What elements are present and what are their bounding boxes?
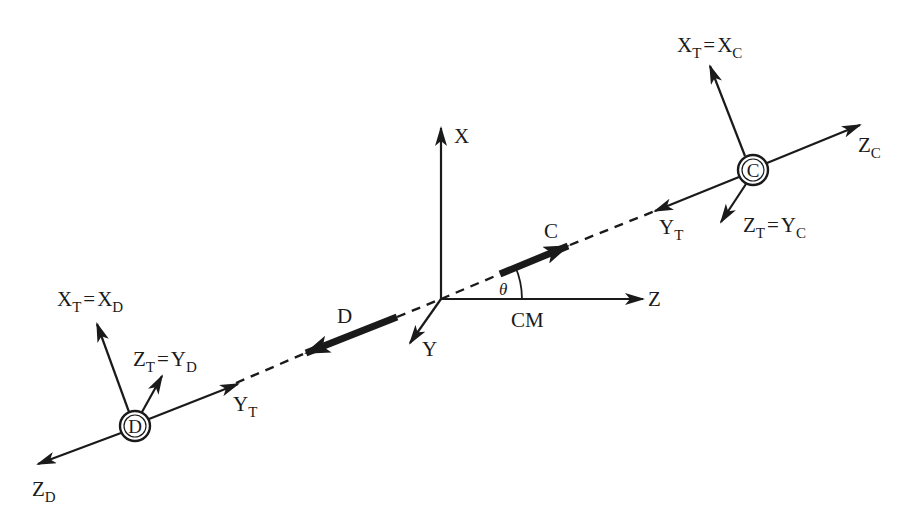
- d-xt-axis-arrow: [97, 324, 129, 412]
- c-zt-label: ZT=YC: [743, 213, 806, 241]
- c-xt-label: XT=XC: [677, 33, 742, 61]
- dashed-segment-c-inner: [441, 274, 500, 299]
- d-zd-axis-arrow: [38, 433, 121, 464]
- c-yt-label: YT: [659, 215, 683, 243]
- d-arrow-label: D: [337, 304, 352, 328]
- body-d-letter: D: [128, 416, 142, 437]
- line-of-centers: [236, 211, 655, 383]
- dashed-segment-c-outer: [570, 211, 655, 245]
- x-axis-label: X: [454, 124, 469, 148]
- cm-frame: X Z Y CM θ: [410, 124, 661, 361]
- cm-label: CM: [511, 308, 544, 332]
- c-yt-axis-arrow: [655, 177, 739, 211]
- d-yt-label: YT: [233, 392, 257, 420]
- coordinate-frame-diagram: X Z Y CM θ C D C XT=XC ZC YT ZT=YC: [0, 0, 923, 532]
- d-xt-label: XT=XD: [57, 287, 123, 315]
- force-arrows: C D: [306, 219, 568, 353]
- c-direction-arrow: [500, 246, 568, 274]
- d-yt-axis-arrow: [149, 384, 238, 419]
- c-arrow-label: C: [544, 219, 558, 243]
- dashed-segment-d-outer: [236, 352, 308, 383]
- c-zc-label: ZC: [858, 133, 881, 161]
- body-c-letter: C: [747, 160, 760, 181]
- c-xt-axis-arrow: [710, 66, 745, 156]
- z-axis-label: Z: [648, 287, 661, 311]
- body-d-frame: D XT=XD ZT=YD YT ZD: [32, 287, 257, 505]
- body-c-frame: C XT=XC ZC YT ZT=YC: [655, 33, 881, 243]
- d-zd-label: ZD: [32, 477, 56, 505]
- theta-label: θ: [499, 280, 507, 299]
- c-zc-axis-arrow: [767, 125, 860, 163]
- d-zt-label: ZT=YD: [133, 347, 197, 375]
- d-zt-axis-arrow: [142, 376, 162, 412]
- y-axis-label: Y: [422, 337, 437, 361]
